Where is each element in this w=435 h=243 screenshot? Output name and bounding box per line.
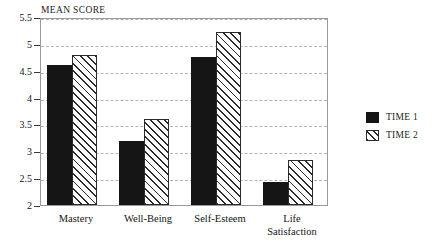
y-axis-tick <box>34 72 40 73</box>
bar-mastery-time-2 <box>72 55 97 205</box>
bar-well-being-time-1 <box>119 141 144 205</box>
y-axis-tick-label: 3 <box>0 146 32 157</box>
plot-area <box>40 18 328 206</box>
legend-label-time-2: TIME 2 <box>386 130 418 140</box>
y-axis-tick <box>34 99 40 100</box>
x-axis-label-line: Satisfaction <box>246 225 338 238</box>
bar-chart-figure: MEAN SCORE 22.533.544.555.5 MasteryWell-… <box>0 0 435 243</box>
y-axis-title: MEAN SCORE <box>41 5 105 15</box>
y-axis-tick-label: 2.5 <box>0 173 32 184</box>
legend-label-time-1: TIME 1 <box>386 112 418 122</box>
y-axis-tick-label: 5.5 <box>0 12 32 23</box>
legend-item-time-2: TIME 2 <box>366 126 418 144</box>
y-axis-tick-label: 3.5 <box>0 119 32 130</box>
bars-layer <box>41 19 327 205</box>
y-axis-tick <box>34 206 40 207</box>
bar-mastery-time-1 <box>47 65 72 205</box>
y-axis-tick-label: 4.5 <box>0 66 32 77</box>
bar-life-satisfaction-time-1 <box>263 182 288 205</box>
legend-item-time-1: TIME 1 <box>366 108 418 126</box>
y-axis-tick-label: 4 <box>0 93 32 104</box>
hatched-square-icon <box>366 130 379 141</box>
x-axis-label-line: Life <box>246 212 338 225</box>
y-axis-tick-label: 2 <box>0 200 32 211</box>
bar-self-esteem-time-2 <box>216 32 241 205</box>
y-axis-tick <box>34 45 40 46</box>
y-axis-tick <box>34 18 40 19</box>
x-axis-label-life-satisfaction: LifeSatisfaction <box>246 212 338 238</box>
chart-legend: TIME 1 TIME 2 <box>366 108 418 144</box>
bar-self-esteem-time-1 <box>191 57 216 205</box>
y-axis-tick <box>34 179 40 180</box>
bar-life-satisfaction-time-2 <box>288 160 313 205</box>
y-axis-tick <box>34 152 40 153</box>
bar-well-being-time-2 <box>144 119 169 205</box>
y-axis-tick-label: 5 <box>0 39 32 50</box>
y-axis-tick <box>34 125 40 126</box>
solid-black-square-icon <box>366 112 379 123</box>
